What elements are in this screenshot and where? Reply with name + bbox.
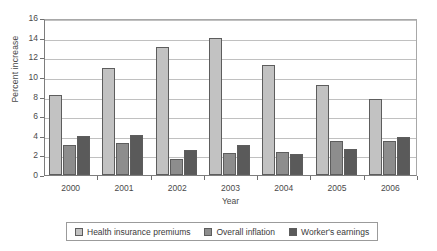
x-axis-label-2003: 2003 <box>204 183 258 193</box>
bar-2004-series-3 <box>290 154 303 175</box>
bar-group-2005 <box>311 20 364 175</box>
y-axis-label: 10 <box>29 72 38 82</box>
bar-2005-series-1 <box>316 85 329 175</box>
bar-2001-series-1 <box>102 68 115 175</box>
bar-chart: Percent increase 02468101214162000200120… <box>0 0 437 251</box>
legend-label: Health insurance premiums <box>87 227 190 237</box>
y-axis-tick <box>40 156 44 157</box>
plot-area <box>44 19 417 176</box>
bar-2003-series-3 <box>237 145 250 175</box>
y-axis-tick <box>40 98 44 99</box>
x-axis-tick <box>151 176 152 180</box>
legend-swatch-icon <box>204 228 212 236</box>
bar-group-2004 <box>258 20 311 175</box>
x-axis-label-2004: 2004 <box>257 183 311 193</box>
x-axis-tick <box>97 176 98 180</box>
bar-2003-series-2 <box>223 153 236 175</box>
x-axis-title: Year <box>44 196 417 206</box>
x-axis-tick <box>204 176 205 180</box>
y-axis-tick <box>40 117 44 118</box>
y-axis-label: 14 <box>29 33 38 43</box>
bar-2006-series-2 <box>383 141 396 175</box>
bar-2000-series-2 <box>63 145 76 175</box>
y-axis-label: 2 <box>33 150 38 160</box>
bar-2000-series-1 <box>49 95 62 175</box>
bar-group-2001 <box>98 20 151 175</box>
y-axis-tick <box>40 137 44 138</box>
y-axis-tick <box>40 176 44 177</box>
legend-swatch-icon <box>289 228 297 236</box>
bar-2005-series-3 <box>344 149 357 175</box>
y-axis-tick <box>40 39 44 40</box>
y-axis-label: 4 <box>33 131 38 141</box>
bar-2000-series-3 <box>77 136 90 175</box>
x-axis-label-2001: 2001 <box>97 183 151 193</box>
y-axis-tick <box>40 58 44 59</box>
bar-group-2003 <box>205 20 258 175</box>
y-axis-label: 0 <box>33 170 38 180</box>
bar-2002-series-3 <box>184 150 197 176</box>
legend-swatch-icon <box>75 228 83 236</box>
y-axis-label: 6 <box>33 111 38 121</box>
x-axis-tick <box>417 176 418 180</box>
bar-2004-series-1 <box>262 65 275 175</box>
legend-label: Overall inflation <box>216 227 275 237</box>
x-axis-label-2000: 2000 <box>44 183 98 193</box>
bar-2002-series-2 <box>170 159 183 175</box>
legend-item-3[interactable]: Worker's earnings <box>289 227 369 237</box>
bar-2001-series-3 <box>130 135 143 175</box>
x-axis-label-2006: 2006 <box>363 183 417 193</box>
legend-label: Worker's earnings <box>301 227 369 237</box>
legend-item-2[interactable]: Overall inflation <box>204 227 275 237</box>
chart-legend: Health insurance premiumsOverall inflati… <box>66 222 378 241</box>
y-axis-title: Percent increase <box>10 14 24 124</box>
bar-2002-series-1 <box>156 47 169 175</box>
bar-2006-series-3 <box>397 137 410 175</box>
legend-item-1[interactable]: Health insurance premiums <box>75 227 190 237</box>
bar-group-2002 <box>152 20 205 175</box>
bar-group-2006 <box>365 20 418 175</box>
y-axis-label: 12 <box>29 52 38 62</box>
y-axis-tick <box>40 78 44 79</box>
bar-group-2000 <box>45 20 98 175</box>
x-axis-label-2005: 2005 <box>310 183 364 193</box>
y-axis-label: 16 <box>29 13 38 23</box>
bar-2006-series-1 <box>369 99 382 175</box>
x-axis-tick <box>310 176 311 180</box>
y-axis-label: 8 <box>33 92 38 102</box>
bar-2004-series-2 <box>276 152 289 175</box>
x-axis-label-2002: 2002 <box>150 183 204 193</box>
x-axis-tick <box>364 176 365 180</box>
y-axis-tick <box>40 19 44 20</box>
bar-2005-series-2 <box>330 141 343 175</box>
x-axis-tick <box>257 176 258 180</box>
bar-2003-series-1 <box>209 38 222 175</box>
bar-2001-series-2 <box>116 143 129 175</box>
